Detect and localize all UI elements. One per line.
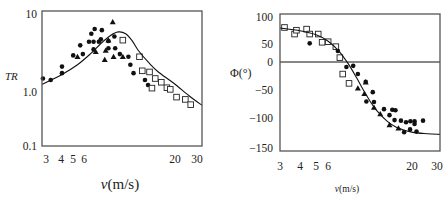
circle-marker [81, 52, 86, 57]
square-marker [333, 44, 339, 50]
x-tick: 20 [169, 153, 181, 165]
circle-marker [351, 64, 356, 69]
y-axis-label: Φ(°) [230, 66, 252, 80]
phase-chart: 100 50 0 −50 −100 −150 Φ(°) 3 4 5 6 20 3… [230, 0, 447, 201]
square-marker [152, 76, 158, 82]
square-marker [346, 81, 352, 87]
circle-marker [364, 99, 369, 104]
circle-marker [41, 76, 46, 81]
y-axis-ticks: 10 1.0 0.1 [23, 8, 38, 152]
x-axis-ticks: 3 4 5 6 20 30 [43, 153, 203, 165]
y-axis-label: TR [5, 70, 18, 82]
y-tick: 50 [262, 38, 274, 50]
circle-marker [87, 39, 92, 44]
square-marker [319, 39, 325, 45]
square-marker [158, 79, 164, 85]
x-tick: 6 [325, 160, 331, 172]
fit-curve [280, 28, 440, 134]
x-tick: 30 [191, 153, 203, 165]
circle-marker [393, 108, 398, 113]
circle-marker [307, 41, 312, 46]
square-marker [188, 102, 194, 108]
x-tick: 6 [81, 153, 87, 165]
x-tick: 30 [431, 160, 443, 172]
triangle-marker [74, 54, 80, 59]
y-tick: 100 [256, 11, 274, 23]
x-tick: 4 [58, 153, 64, 165]
circle-marker [143, 78, 148, 83]
circle-marker [60, 64, 65, 69]
square-marker [149, 85, 155, 91]
circle-marker [421, 118, 426, 123]
circle-marker [126, 54, 131, 59]
y-tick: 0.1 [23, 140, 38, 152]
circle-marker [408, 119, 413, 124]
x-tick: 3 [277, 160, 283, 172]
circle-marker [412, 122, 417, 127]
circle-marker [372, 100, 377, 105]
transmissibility-chart: 10 1.0 0.1 TR 3 4 5 6 20 30 v(m/s) [0, 0, 230, 201]
square-marker [147, 69, 153, 75]
x-tick: 5 [313, 160, 319, 172]
y-tick: −100 [249, 112, 273, 124]
circle-marker [128, 62, 133, 67]
data-markers [282, 25, 426, 135]
triangle-marker [110, 19, 116, 24]
plot-frame [42, 11, 202, 146]
circle-marker [399, 118, 404, 123]
x-axis-ticks: 3 4 5 6 20 30 [277, 160, 443, 172]
x-tick: 5 [70, 153, 76, 165]
x-axis-label: v(m/s) [335, 184, 359, 195]
triangle-marker [111, 54, 117, 59]
x-tick: 4 [297, 160, 303, 172]
square-marker [340, 71, 346, 77]
circle-marker [112, 34, 117, 39]
circle-marker [113, 46, 118, 51]
square-marker [174, 94, 180, 100]
circle-marker [71, 53, 76, 58]
square-marker [337, 55, 343, 61]
circle-marker [99, 37, 104, 42]
y-tick: −150 [249, 142, 273, 154]
y-tick: 10 [26, 8, 38, 20]
circle-marker [356, 72, 361, 77]
y-tick: −50 [255, 84, 273, 96]
square-marker [183, 97, 189, 103]
y-tick: 1.0 [23, 86, 38, 98]
x-axis-label: v(m/s) [101, 176, 139, 193]
circle-marker [404, 120, 409, 125]
x-tick: 3 [43, 153, 49, 165]
circle-marker [91, 39, 96, 44]
circle-marker [370, 90, 375, 95]
circle-marker [100, 28, 105, 33]
circle-marker [344, 65, 349, 70]
y-axis-ticks: 100 50 0 −50 −100 −150 [249, 11, 273, 154]
square-marker [167, 87, 173, 93]
circle-marker [392, 118, 397, 123]
triangle-marker [355, 85, 361, 90]
triangle-marker [105, 37, 111, 42]
transmissibility-plot: 10 1.0 0.1 TR 3 4 5 6 20 30 v(m/s) [0, 0, 230, 201]
square-marker [120, 37, 126, 43]
y-tick: 0 [267, 56, 273, 68]
square-marker [139, 68, 145, 74]
circle-marker [92, 27, 97, 32]
phase-plot: 100 50 0 −50 −100 −150 Φ(°) 3 4 5 6 20 3… [230, 0, 447, 201]
x-tick: 20 [406, 160, 418, 172]
triangle-marker [102, 57, 108, 62]
circle-marker [382, 107, 387, 112]
square-marker [282, 25, 288, 31]
circle-marker [78, 43, 83, 48]
circle-marker [89, 31, 94, 36]
circle-marker [118, 52, 123, 57]
circle-marker [387, 113, 392, 118]
circle-marker [131, 71, 136, 76]
